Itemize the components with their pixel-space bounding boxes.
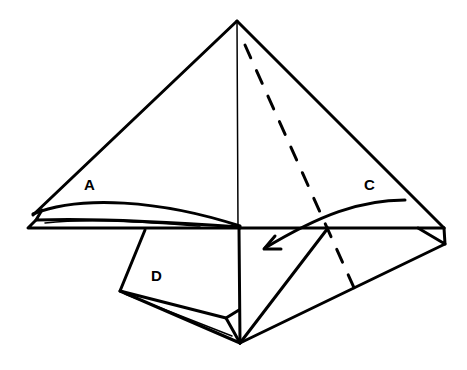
triangle-right-edge (237, 21, 444, 228)
right-corner (418, 228, 445, 244)
valley-fold-line (245, 45, 355, 290)
inner-diagonal (240, 228, 328, 343)
label-d: D (151, 267, 162, 284)
center-lower-vertical (239, 228, 240, 343)
center-crease (237, 21, 238, 228)
triangle-left-edge (33, 21, 237, 215)
flap-d-outline (120, 230, 240, 343)
fold-arrow-curve (265, 200, 405, 248)
origami-diagram: A C D (0, 0, 467, 370)
label-a: A (84, 176, 95, 193)
flap-d-inner-edge (120, 291, 239, 318)
label-c: C (364, 176, 375, 193)
